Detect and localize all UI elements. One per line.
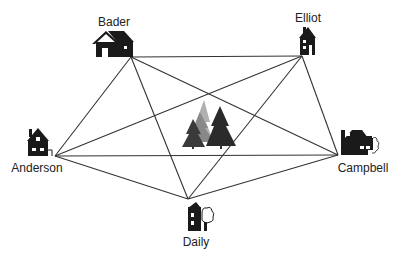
edge-elliot-anderson (55, 56, 302, 156)
node-label-elliot: Elliot (295, 12, 321, 24)
node-label-daily: Daily (183, 236, 210, 248)
node-label-bader: Bader (98, 16, 130, 28)
house-icon-campbell (341, 130, 379, 155)
house-icon-anderson (27, 128, 52, 156)
edge-bader-daily (131, 57, 188, 199)
edges-layer (0, 0, 405, 263)
edge-anderson-campbell (55, 155, 338, 156)
node-label-anderson: Anderson (11, 162, 62, 174)
house-icon-daily (188, 202, 214, 231)
house-icon-elliot (299, 27, 316, 55)
edge-bader-elliot (131, 56, 302, 57)
house-icon-bader (92, 31, 134, 57)
node-label-campbell: Campbell (338, 162, 389, 174)
network-diagram: Bader Elliot Anderson Campbell Daily (0, 0, 405, 263)
edge-campbell-daily (188, 155, 338, 199)
edge-anderson-daily (55, 156, 188, 199)
pine-trees-icon (182, 100, 236, 149)
